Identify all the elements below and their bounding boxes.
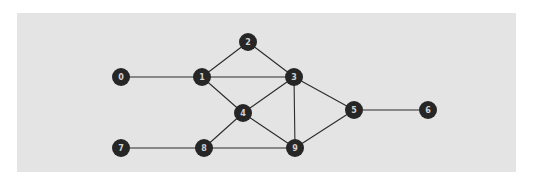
node-layer: 0123456789 xyxy=(112,33,437,157)
graph-canvas: 0123456789 xyxy=(0,0,546,187)
graph-node-8[interactable]: 8 xyxy=(195,139,213,157)
graph-node-circle-9[interactable] xyxy=(286,139,304,157)
graph-edge-4-9 xyxy=(243,113,295,148)
graph-node-6[interactable]: 6 xyxy=(419,101,437,119)
graph-node-1[interactable]: 1 xyxy=(193,68,211,86)
graph-node-9[interactable]: 9 xyxy=(286,139,304,157)
graph-node-7[interactable]: 7 xyxy=(112,139,130,157)
graph-node-circle-3[interactable] xyxy=(285,68,303,86)
graph-edge-3-9 xyxy=(294,77,295,148)
edge-layer xyxy=(121,42,428,148)
graph-node-circle-7[interactable] xyxy=(112,139,130,157)
graph-node-3[interactable]: 3 xyxy=(285,68,303,86)
graph-node-circle-6[interactable] xyxy=(419,101,437,119)
graph-node-0[interactable]: 0 xyxy=(112,68,130,86)
graph-node-circle-0[interactable] xyxy=(112,68,130,86)
graph-node-circle-5[interactable] xyxy=(345,101,363,119)
graph-node-5[interactable]: 5 xyxy=(345,101,363,119)
graph-node-circle-1[interactable] xyxy=(193,68,211,86)
graph-node-circle-8[interactable] xyxy=(195,139,213,157)
graph-edge-5-9 xyxy=(295,110,354,148)
graph-node-4[interactable]: 4 xyxy=(234,104,252,122)
graph-figure: 0123456789 xyxy=(0,0,546,187)
graph-edge-3-5 xyxy=(294,77,354,110)
graph-node-circle-2[interactable] xyxy=(239,33,257,51)
graph-node-circle-4[interactable] xyxy=(234,104,252,122)
graph-node-2[interactable]: 2 xyxy=(239,33,257,51)
graph-edge-3-4 xyxy=(243,77,294,113)
